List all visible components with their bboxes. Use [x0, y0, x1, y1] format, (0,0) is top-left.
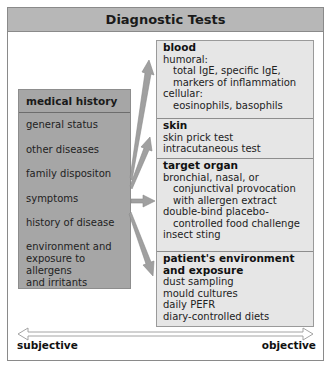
- diagram-frame: Diagnostic Tests medical history general…: [7, 7, 324, 361]
- subjective-objective-scale-icon: [8, 8, 325, 362]
- scale-label-objective: objective: [262, 339, 316, 351]
- scale-label-subjective: subjective: [17, 339, 78, 351]
